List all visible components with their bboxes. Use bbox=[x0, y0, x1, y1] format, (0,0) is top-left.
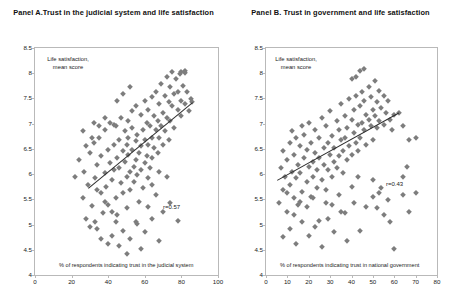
scatter-point bbox=[171, 125, 177, 131]
scatter-point bbox=[314, 185, 320, 191]
y-axis-tick-mark bbox=[32, 174, 35, 175]
scatter-point bbox=[287, 226, 293, 232]
scatter-point bbox=[344, 238, 350, 244]
scatter-point bbox=[120, 228, 126, 234]
scatter-point bbox=[329, 133, 335, 139]
scatter-point bbox=[376, 190, 382, 196]
scatter-point bbox=[140, 185, 146, 191]
y-axis-tick-label: 4.5 bbox=[23, 247, 32, 253]
scatter-point bbox=[156, 238, 162, 244]
panel-a: Panel A.Trust in the judicial system and… bbox=[0, 0, 227, 306]
x-axis-tick-label: 0 bbox=[264, 279, 267, 285]
scatter-point bbox=[136, 150, 142, 156]
scatter-point bbox=[304, 147, 310, 153]
panel-b-plot-frame: Life satisfaction, mean score r=0.43 % o… bbox=[265, 47, 438, 276]
scatter-point bbox=[316, 218, 322, 224]
y-axis-tick-label: 7.5 bbox=[254, 95, 263, 101]
scatter-point bbox=[124, 251, 130, 257]
scatter-point bbox=[109, 233, 115, 239]
x-axis-tick-mark bbox=[330, 275, 331, 278]
scatter-point bbox=[336, 127, 342, 133]
x-axis-tick-label: 20 bbox=[68, 279, 75, 285]
scatter-point bbox=[370, 177, 376, 183]
scatter-point bbox=[389, 127, 395, 133]
scatter-point bbox=[98, 236, 104, 242]
scatter-point bbox=[113, 219, 119, 225]
scatter-point bbox=[359, 89, 365, 95]
scatter-point bbox=[131, 179, 137, 185]
scatter-point bbox=[87, 150, 93, 156]
scatter-point bbox=[310, 195, 316, 201]
scatter-point bbox=[149, 182, 155, 188]
y-axis-tick-label: 5.5 bbox=[23, 196, 32, 202]
scatter-point bbox=[349, 152, 355, 158]
scatter-point bbox=[151, 145, 157, 151]
scatter-point bbox=[98, 153, 104, 159]
y-axis-tick-mark bbox=[263, 250, 266, 251]
scatter-point bbox=[293, 241, 299, 247]
x-axis-tick-mark bbox=[266, 275, 267, 278]
scatter-point bbox=[346, 143, 352, 149]
scatter-point bbox=[357, 103, 363, 109]
scatter-point bbox=[291, 152, 297, 158]
y-axis-tick-mark bbox=[263, 124, 266, 125]
x-axis-tick-mark bbox=[394, 275, 395, 278]
y-axis-tick-mark bbox=[32, 225, 35, 226]
scatter-point bbox=[125, 135, 131, 141]
scatter-point bbox=[116, 165, 122, 171]
scatter-point bbox=[167, 84, 173, 90]
scatter-point bbox=[342, 113, 348, 119]
scatter-point bbox=[304, 204, 310, 210]
scatter-point bbox=[122, 128, 128, 134]
scatter-point bbox=[102, 115, 108, 121]
scatter-point bbox=[319, 115, 325, 121]
scatter-point bbox=[374, 100, 380, 106]
scatter-point bbox=[353, 140, 359, 146]
x-axis-tick-label: 60 bbox=[391, 279, 398, 285]
scatter-point bbox=[145, 107, 151, 113]
y-axis-tick-mark bbox=[263, 149, 266, 150]
scatter-point bbox=[323, 187, 329, 193]
scatter-point bbox=[325, 216, 331, 222]
x-axis-tick-mark bbox=[373, 275, 374, 278]
scatter-point bbox=[276, 200, 282, 206]
scatter-point bbox=[385, 197, 391, 203]
scatter-point bbox=[287, 182, 293, 188]
scatter-point bbox=[331, 229, 337, 235]
scatter-point bbox=[127, 236, 133, 242]
scatter-point bbox=[83, 216, 89, 222]
scatter-point bbox=[381, 213, 387, 219]
scatter-point bbox=[291, 195, 297, 201]
panel-a-y-axis-caption: Life satisfaction, mean score bbox=[41, 56, 95, 71]
scatter-point bbox=[355, 174, 361, 180]
scatter-point bbox=[160, 142, 166, 148]
panel-b-title: Panel B. Trust in government and life sa… bbox=[227, 8, 454, 18]
scatter-point bbox=[145, 204, 151, 210]
scatter-point bbox=[127, 187, 133, 193]
scatter-point bbox=[325, 167, 331, 173]
x-axis-tick-label: 100 bbox=[213, 279, 223, 285]
scatter-point bbox=[391, 246, 397, 252]
y-axis-tick-mark bbox=[32, 149, 35, 150]
scatter-point bbox=[135, 132, 141, 138]
scatter-point bbox=[186, 108, 192, 114]
scatter-point bbox=[138, 112, 144, 118]
scatter-point bbox=[89, 203, 95, 209]
scatter-point bbox=[116, 137, 122, 143]
scatter-point bbox=[113, 195, 119, 201]
x-axis-tick-label: 20 bbox=[305, 279, 312, 285]
scatter-point bbox=[147, 165, 153, 171]
scatter-point bbox=[149, 216, 155, 222]
scatter-point bbox=[336, 153, 342, 159]
scatter-point bbox=[133, 138, 139, 144]
scatter-point bbox=[166, 137, 172, 143]
scatter-point bbox=[96, 135, 102, 141]
scatter-point bbox=[105, 147, 111, 153]
y-axis-tick-mark bbox=[32, 98, 35, 99]
x-axis-tick-mark bbox=[352, 275, 353, 278]
scatter-point bbox=[83, 143, 89, 149]
scatter-point bbox=[299, 189, 305, 195]
x-axis-tick-mark bbox=[287, 275, 288, 278]
scatter-point bbox=[378, 185, 384, 191]
x-axis-tick-mark bbox=[181, 275, 182, 278]
